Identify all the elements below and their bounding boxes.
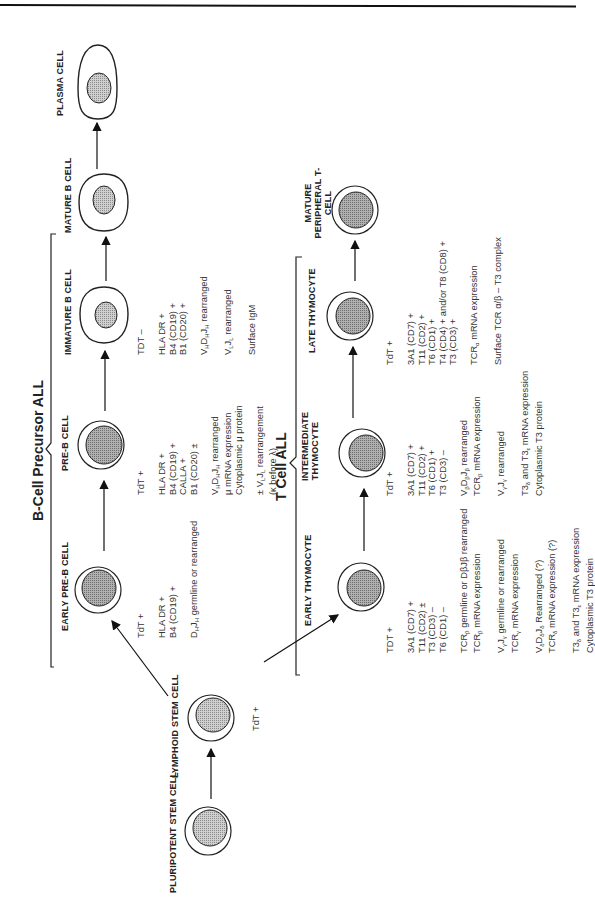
intermediate-thymocyte-markers: TdT + 3A1 (CD7) + T11 (CD2) + T6 (CD1) +…: [385, 371, 544, 496]
mature-b-cell-graphic: [79, 174, 128, 231]
dh-jh-marker: DHJH germline or rearranged: [189, 521, 203, 638]
early-thymocyte-markers: TDT + 3A1 (CD7) + T11 (CD2) ± T3 (CD3) –…: [385, 509, 595, 653]
immature-b-cell-label: IMMATURE B CELL: [63, 269, 73, 355]
early-pre-b-cell-graphic: [75, 567, 121, 613]
early-thymocyte-label: EARLY THYMOCYTE: [303, 534, 313, 626]
pluripotent-stem-cell-graphic: [185, 807, 231, 855]
pluripotent-stem-cell-label: PLURIPOTENT STEM CELL: [168, 772, 178, 893]
immature-b-cell-graphic: [80, 287, 128, 343]
lymphoid-stem-cell-graphic: [188, 695, 234, 741]
late-thymocyte-graphic: [327, 292, 373, 340]
early-pre-b-markers: TdT + HLA DR + B4 (CD19) + DHJH germline…: [136, 521, 202, 638]
b-cell-precursor-all-header: B-Cell Precursor ALL: [30, 380, 46, 521]
late-thymocyte-markers: TdT + 3A1 (CD7) + T11 (CD2) + T6 (CD1) +…: [385, 237, 504, 365]
plasma-cell-label: PLASMA CELL: [55, 50, 65, 116]
pre-b-markers: TdT + HLA DR + B4 (CD19) + CALLA + B1 (C…: [136, 405, 279, 495]
immature-b-markers: TDT – HLA DR + B4 (CD19) + B1 (CD20) + V…: [136, 276, 258, 355]
late-thymocyte-label: LATE THYMOCYTE: [307, 268, 317, 353]
lymphoid-stem-cell-label: LYMPHOID STEM CELL: [170, 674, 180, 778]
mature-b-cell-label: MATURE B CELL: [63, 158, 73, 233]
pre-b-cell-label: PRE-B CELL: [60, 415, 70, 471]
intermediate-thymocyte-label: INTERMEDIATE THYMOCYTE: [300, 421, 320, 481]
early-thymocyte-graphic: [338, 563, 384, 611]
lymphoid-tdt-marker: TdT +: [251, 707, 262, 731]
intermediate-thymocyte-graphic: [339, 429, 385, 477]
plasma-cell-graphic: [78, 45, 117, 119]
mature-peripheral-t-cell-graphic: [332, 186, 378, 234]
early-pre-b-cell-label: EARLY PRE-B CELL: [60, 542, 70, 631]
pre-b-cell-graphic: [78, 421, 124, 469]
mature-peripheral-t-cell-label: MATURE PERIPHERAL T-CELL: [303, 163, 333, 243]
b-cell-bracket: [46, 234, 56, 667]
